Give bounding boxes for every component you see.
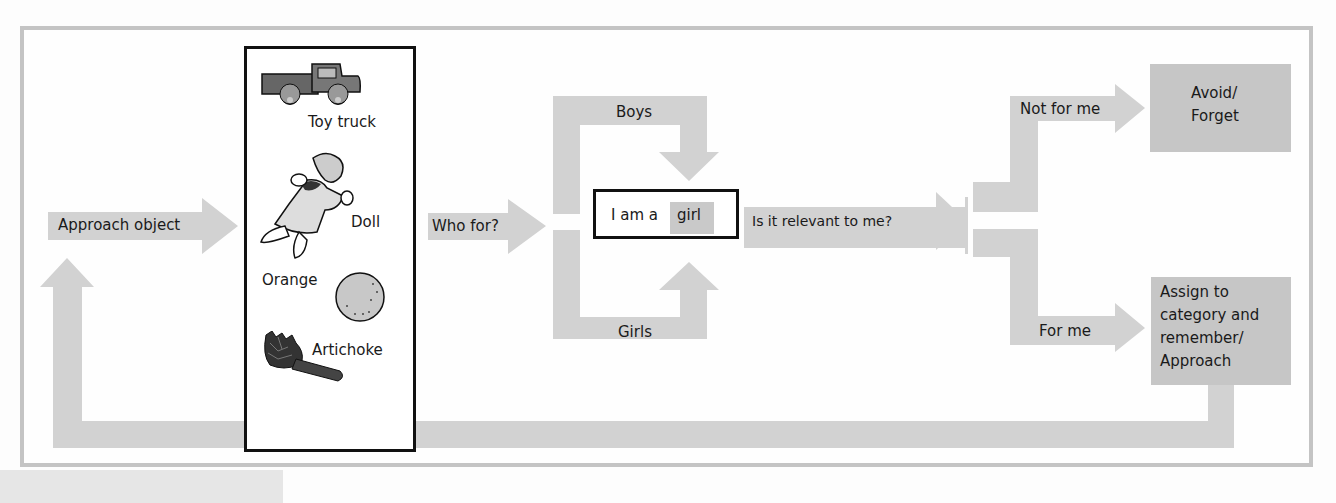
result-assign-line-1: Assign to (1160, 283, 1229, 301)
result-assign-line-2: category and (1160, 306, 1259, 324)
not-for-me-label: Not for me (1020, 100, 1100, 118)
result-assign-line-4: Approach (1160, 352, 1231, 370)
identity-value: girl (677, 206, 701, 224)
object-label-artichoke: Artichoke (312, 341, 383, 359)
result-assign-line-3: remember/ (1160, 329, 1244, 347)
relevance-question-label: Is it relevant to me? (752, 213, 892, 230)
object-label-orange: Orange (262, 271, 317, 289)
doll-icon (255, 150, 365, 262)
object-label-toy-truck: Toy truck (308, 113, 376, 131)
who-for-label: Who for? (432, 217, 499, 235)
orange-icon (333, 270, 387, 324)
branch-label-boys: Boys (616, 103, 652, 121)
feedback-loop-arrow (40, 258, 1234, 448)
approach-object-label: Approach object (58, 216, 180, 234)
identity-prefix: I am a (611, 206, 658, 224)
result-avoid-line-1: Avoid/ (1191, 84, 1237, 102)
flow-arrows (0, 0, 1336, 503)
result-avoid-line-2: Forget (1191, 107, 1239, 125)
toy-truck-icon (260, 60, 362, 106)
branch-label-girls: Girls (618, 323, 652, 341)
for-me-label: For me (1039, 322, 1091, 340)
object-label-doll: Doll (351, 213, 380, 231)
